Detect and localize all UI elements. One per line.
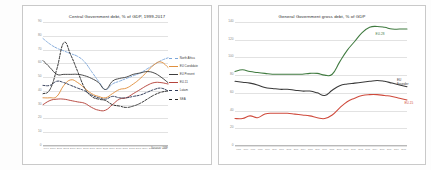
- legend-swatch-icon: [169, 82, 178, 83]
- ytick-label: 0: [232, 144, 234, 147]
- screenshot-canvas: Central Government debt, % of GDP, 1999-…: [0, 0, 431, 170]
- ytick-label: 80: [38, 34, 42, 37]
- xtick-label: 2006: [89, 148, 96, 151]
- source-note-left: Source: IMF: [151, 146, 168, 150]
- xtick-label: 2013: [135, 148, 142, 151]
- ytick-label: 90: [38, 20, 42, 23]
- xtick-labels-right: 1995199619971998199920002001200220032004…: [235, 148, 407, 150]
- chart-legend-left: North AfricaEU CandidateEU PresentEU-11L…: [169, 54, 211, 103]
- ytick-label: 20: [38, 117, 42, 120]
- series-line-eu-candidate: [43, 62, 168, 98]
- xtick-label: 2014: [371, 148, 378, 150]
- legend-item-label: SEA: [180, 98, 186, 101]
- xtick-labels-left: 1999200020012002200320042005200620072008…: [43, 148, 168, 151]
- xtick-label: 2002: [285, 148, 292, 150]
- xtick-label: 2014: [142, 148, 149, 151]
- legend-item-label: North Africa: [180, 57, 195, 60]
- xtick-label: 1999: [43, 148, 50, 151]
- xtick-label: 2015: [378, 148, 385, 150]
- xtick-label: 2016: [386, 148, 393, 150]
- legend-item-label: Latam: [180, 89, 188, 92]
- xtick-label: 2000: [271, 148, 278, 150]
- legend-swatch-icon: [169, 90, 178, 91]
- xtick-label: 2006: [314, 148, 321, 150]
- series-line-eu-present: [43, 61, 168, 90]
- xtick-label: 2011: [350, 148, 357, 150]
- xtick-label: 1996: [242, 148, 249, 150]
- x-axis-line-right: [235, 145, 407, 146]
- legend-item-label: EU Present: [180, 73, 195, 76]
- legend-swatch-icon: [169, 58, 178, 59]
- xtick-label: 2001: [278, 148, 285, 150]
- xtick-label: 2004: [76, 148, 83, 151]
- series-lines-right: [235, 22, 407, 146]
- series-line-eu-15: [235, 94, 407, 118]
- xtick-label: 1998: [257, 148, 264, 150]
- chart-panel-central-government-debt: Central Government debt, % of GDP, 1999-…: [22, 5, 212, 165]
- xtick-label: 2017: [393, 148, 400, 150]
- chart-title-right: General Government gross debt, % of GDP: [219, 14, 425, 19]
- xtick-label: 2010: [115, 148, 122, 151]
- ytick-label: 40: [38, 89, 42, 92]
- chart-panel-general-government-gross-debt: General Government gross debt, % of GDP …: [218, 5, 426, 165]
- ytick-label: 30: [38, 103, 42, 106]
- xtick-label: 1997: [249, 148, 256, 150]
- legend-swatch-icon: [169, 99, 178, 100]
- xtick-label: 2009: [109, 148, 116, 151]
- xtick-label: 2010: [343, 148, 350, 150]
- plot-area-right: 020406080100120140 199519961997199819992…: [235, 22, 407, 146]
- xtick-label: 2005: [82, 148, 89, 151]
- legend-swatch-icon: [169, 74, 178, 75]
- legend-item-eu-present[interactable]: EU Present: [169, 70, 211, 78]
- xtick-label: 1999: [264, 148, 271, 150]
- legend-item-label: EU-11: [180, 81, 188, 84]
- legend-item-latam[interactable]: Latam: [169, 87, 211, 95]
- xtick-label: 2004: [300, 148, 307, 150]
- ytick-label: 70: [38, 48, 42, 51]
- legend-item-label: EU Candidate: [180, 65, 198, 68]
- xtick-label: 2007: [321, 148, 328, 150]
- legend-item-eu-11[interactable]: EU-11: [169, 79, 211, 87]
- series-line-eu-11: [43, 82, 168, 111]
- xtick-label: 2009: [335, 148, 342, 150]
- ytick-label: 80: [230, 74, 234, 77]
- ytick-label: 100: [228, 56, 233, 59]
- x-axis-line-left: [43, 145, 168, 146]
- series-line-eu-founder: [235, 80, 407, 95]
- ytick-label: 10: [38, 131, 42, 134]
- series-label-eu-15: EU-15: [405, 102, 414, 106]
- ytick-label: 140: [228, 20, 233, 23]
- series-lines-left: [43, 22, 168, 146]
- xtick-label: 2007: [96, 148, 103, 151]
- ytick-label: 40: [230, 109, 234, 112]
- ytick-label: 50: [38, 76, 42, 79]
- xtick-label: 2018: [400, 148, 407, 150]
- legend-item-eu-candidate[interactable]: EU Candidate: [169, 62, 211, 70]
- xtick-label: 2012: [129, 148, 136, 151]
- xtick-label: 2013: [364, 148, 371, 150]
- series-line-latam: [43, 81, 168, 99]
- ytick-label: 120: [228, 38, 233, 41]
- legend-item-north-africa[interactable]: North Africa: [169, 54, 211, 62]
- xtick-label: 2011: [122, 148, 129, 151]
- xtick-label: 2003: [69, 148, 76, 151]
- series-label-eu-28: EU-28: [376, 33, 385, 37]
- xtick-label: 2002: [63, 148, 70, 151]
- legend-item-sea[interactable]: SEA: [169, 95, 211, 103]
- plot-area-left: 0102030405060708090 19992000200120022003…: [43, 22, 168, 146]
- xtick-label: 2005: [307, 148, 314, 150]
- ytick-label: 0: [40, 144, 42, 147]
- xtick-label: 2001: [56, 148, 63, 151]
- xtick-label: 2000: [50, 148, 57, 151]
- xtick-label: 2008: [328, 148, 335, 150]
- xtick-label: 2008: [102, 148, 109, 151]
- legend-swatch-icon: [169, 66, 178, 67]
- chart-title-left: Central Government debt, % of GDP, 1999-…: [23, 14, 211, 19]
- ytick-label: 60: [38, 62, 42, 65]
- xtick-label: 2003: [292, 148, 299, 150]
- series-label-eu-founder: EU Founder: [397, 79, 409, 86]
- ytick-label: 20: [230, 127, 234, 130]
- ytick-label: 60: [230, 91, 234, 94]
- xtick-label: 1995: [235, 148, 242, 150]
- xtick-label: 2012: [357, 148, 364, 150]
